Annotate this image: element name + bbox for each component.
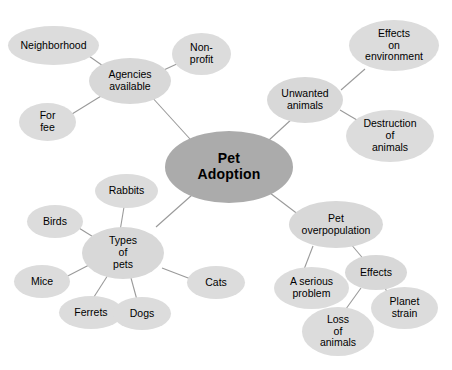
- node-label-agencies-available: Agencies available: [108, 69, 151, 93]
- edge-center-unwanted: [268, 118, 293, 141]
- node-label-cats: Cats: [205, 277, 227, 289]
- node-planet-strain[interactable]: Planet strain: [371, 287, 438, 329]
- node-label-pet-overpopulation: Pet overpopulation: [302, 213, 371, 237]
- node-label-effects: Effects: [360, 267, 392, 279]
- node-label-pet-adoption: Pet Adoption: [197, 151, 260, 182]
- node-types-of-pets[interactable]: Types of pets: [82, 227, 164, 279]
- node-non-profit[interactable]: Non- profit: [172, 33, 231, 75]
- node-rabbits[interactable]: Rabbits: [95, 174, 158, 208]
- edge-center-types: [156, 195, 192, 227]
- node-label-for-fee: For fee: [40, 110, 56, 134]
- node-label-a-serious-problem: A serious problem: [290, 276, 333, 300]
- edge-unwanted-effects-env: [341, 69, 365, 90]
- mind-map-diagram: Pet Adoption Agencies available Neighbor…: [0, 0, 452, 370]
- node-label-non-profit: Non- profit: [190, 42, 213, 66]
- node-loss-of-animals[interactable]: Loss of animals: [302, 307, 374, 356]
- node-label-dogs: Dogs: [130, 308, 155, 320]
- node-destruction-of-animals[interactable]: Destruction of animals: [346, 110, 434, 162]
- node-label-effects-on-environment: Effects on environment: [365, 28, 423, 63]
- node-label-unwanted-animals: Unwanted animals: [281, 88, 328, 112]
- node-label-destruction-of-animals: Destruction of animals: [363, 118, 416, 153]
- node-cats[interactable]: Cats: [187, 266, 245, 299]
- node-mice[interactable]: Mice: [14, 265, 70, 298]
- node-label-mice: Mice: [31, 276, 53, 288]
- node-label-birds: Birds: [43, 216, 67, 228]
- node-label-types-of-pets: Types of pets: [109, 235, 137, 270]
- node-label-planet-strain: Planet strain: [390, 296, 420, 320]
- node-effects-on-environment[interactable]: Effects on environment: [349, 20, 439, 71]
- node-label-rabbits: Rabbits: [109, 185, 145, 197]
- node-label-loss-of-animals: Loss of animals: [320, 314, 356, 349]
- node-pet-overpopulation[interactable]: Pet overpopulation: [289, 201, 383, 248]
- node-neighborhood[interactable]: Neighborhood: [8, 26, 99, 65]
- node-dogs[interactable]: Dogs: [113, 297, 171, 330]
- node-for-fee[interactable]: For fee: [19, 103, 76, 141]
- node-effects[interactable]: Effects: [345, 255, 407, 290]
- node-agencies-available[interactable]: Agencies available: [89, 58, 171, 104]
- node-birds[interactable]: Birds: [27, 205, 83, 238]
- node-label-neighborhood: Neighborhood: [21, 40, 87, 52]
- node-a-serious-problem[interactable]: A serious problem: [274, 267, 349, 309]
- edge-center-agencies: [150, 95, 190, 139]
- node-label-ferrets: Ferrets: [74, 307, 107, 319]
- node-pet-adoption[interactable]: Pet Adoption: [165, 131, 293, 203]
- node-unwanted-animals[interactable]: Unwanted animals: [267, 77, 343, 123]
